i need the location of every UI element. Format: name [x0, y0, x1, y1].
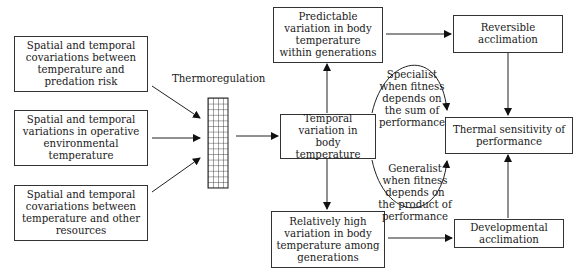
input-box-predation: Spatial and temporal covariations betwee…: [14, 36, 148, 92]
predictable-within-text: Predictable variation in body temperatur…: [278, 11, 378, 59]
input-text-operative: Spatial and temporal variations in opera…: [19, 114, 143, 162]
thermoregulation-filter-icon: [208, 98, 228, 188]
arrow-resources-to-filter: [152, 158, 200, 192]
thermal-sensitivity-text: Thermal sensitivity of performance: [450, 124, 568, 148]
developmental-acclimation-text: Developmental acclimation: [459, 222, 559, 246]
high-among-text: Relatively high variation in body temper…: [276, 216, 380, 264]
input-box-resources: Spatial and temporal covariations betwee…: [14, 185, 148, 241]
input-text-resources: Spatial and temporal covariations betwee…: [19, 189, 143, 237]
predictable-within-box: Predictable variation in body temperatur…: [273, 7, 383, 63]
developmental-acclimation-box: Developmental acclimation: [454, 219, 564, 248]
thermoregulation-label: Thermoregulation: [172, 73, 262, 85]
input-text-predation: Spatial and temporal covariations betwee…: [19, 40, 143, 88]
reversible-acclimation-box: Reversible acclimation: [453, 15, 563, 53]
reversible-acclimation-text: Reversible acclimation: [458, 22, 558, 46]
arrow-predation-to-filter: [152, 86, 200, 118]
specialist-label: Specialist when fitness depends on the s…: [373, 69, 451, 129]
generalist-label: Generalist when fitness depends on the p…: [378, 163, 452, 223]
temporal-variation-text: Temporal variation in body temperature: [285, 113, 371, 161]
input-box-operative: Spatial and temporal variations in opera…: [14, 110, 148, 166]
temporal-variation-box: Temporal variation in body temperature: [280, 114, 376, 159]
high-among-box: Relatively high variation in body temper…: [271, 211, 385, 268]
thermal-sensitivity-box: Thermal sensitivity of performance: [445, 117, 573, 154]
